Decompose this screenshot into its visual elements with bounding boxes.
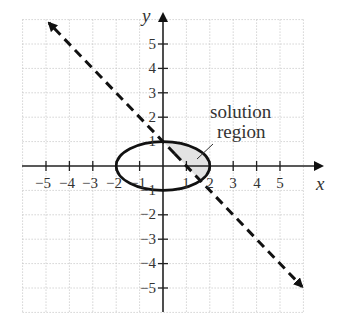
svg-text:−3: −3 [82,175,98,191]
x-axis-label: x [315,173,325,194]
svg-text:−4: −4 [59,175,75,191]
svg-text:−5: −5 [140,280,156,296]
svg-text:3: 3 [229,175,237,191]
svg-text:4: 4 [253,175,261,191]
axes [22,14,322,312]
y-axis-label: y [140,5,151,26]
annotation-region: region [217,121,266,142]
svg-text:1: 1 [182,175,190,191]
x-tick-labels: −5 −4 −3 −2 −1 1 2 3 4 5 [35,175,284,191]
svg-text:5: 5 [149,36,157,52]
svg-text:1: 1 [149,133,157,149]
annotation-solution: solution [210,101,272,122]
svg-text:2: 2 [149,109,157,125]
svg-text:−1: −1 [140,182,156,198]
svg-text:5: 5 [276,175,284,191]
dashed-boundary-line-lower [175,154,302,287]
svg-text:−5: −5 [35,175,51,191]
graph: −5 −4 −3 −2 −1 1 2 3 4 5 5 4 3 2 1 −1 −2… [0,0,346,315]
svg-text:−3: −3 [140,231,156,247]
svg-text:−4: −4 [140,255,156,271]
svg-text:−2: −2 [140,206,156,222]
svg-text:−2: −2 [106,175,122,191]
svg-text:3: 3 [149,85,157,101]
svg-text:4: 4 [149,60,157,76]
svg-text:2: 2 [206,175,214,191]
